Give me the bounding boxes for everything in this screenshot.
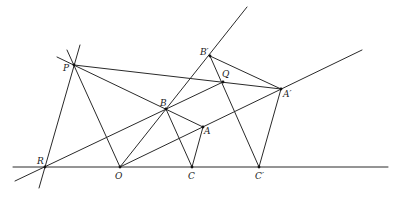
label-b: B bbox=[159, 98, 167, 108]
point-c bbox=[191, 166, 194, 169]
point-b bbox=[165, 108, 168, 111]
line-O-B-Bp bbox=[120, 7, 247, 167]
segment-Ap-Cp bbox=[259, 89, 281, 167]
label-r: R bbox=[36, 156, 44, 166]
point-r bbox=[44, 166, 47, 169]
label-p: P bbox=[62, 63, 70, 73]
line-P-B-A bbox=[57, 57, 203, 127]
point-cp bbox=[258, 166, 261, 169]
construction-points bbox=[44, 55, 283, 169]
construction-lines bbox=[13, 7, 388, 188]
line-O-A-Ap bbox=[120, 50, 362, 167]
segment-Bp-Ap bbox=[210, 56, 281, 89]
label-ap: A′ bbox=[282, 89, 292, 99]
label-bp: B′ bbox=[199, 47, 209, 57]
point-o bbox=[119, 166, 122, 169]
segment-Bp-Cp bbox=[210, 56, 259, 167]
segment-A-C bbox=[192, 127, 203, 167]
point-ap bbox=[280, 88, 283, 91]
label-cp: C′ bbox=[255, 171, 264, 181]
label-c: C bbox=[188, 171, 195, 181]
point-p bbox=[73, 64, 76, 67]
point-q bbox=[222, 81, 225, 84]
label-q: Q bbox=[222, 69, 230, 79]
point-bp bbox=[209, 55, 212, 58]
label-o: O bbox=[115, 171, 123, 181]
label-a: A bbox=[203, 126, 211, 136]
line-P-Ap bbox=[74, 65, 281, 89]
segment-B-C bbox=[166, 109, 192, 167]
geometric-diagram: PB′QA′BAROCC′ bbox=[0, 0, 400, 199]
